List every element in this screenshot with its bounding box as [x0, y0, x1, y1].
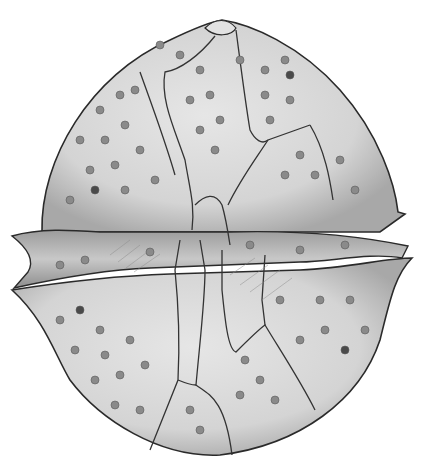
- hypotheca: [12, 258, 412, 455]
- dinoflagellate-drawing: [0, 0, 426, 466]
- illustration-canvas: [0, 0, 426, 466]
- epitheca: [42, 20, 405, 232]
